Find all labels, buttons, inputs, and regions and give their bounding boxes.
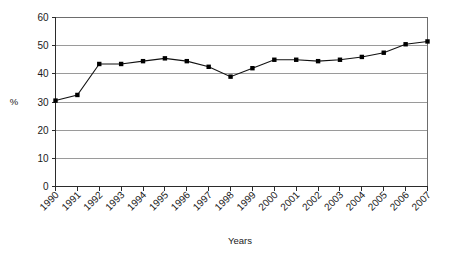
line-chart-figure: 0102030405060 19901991199219931994199519…: [0, 0, 456, 255]
x-axis-label: Years: [228, 235, 252, 246]
x-tick-label: 1997: [191, 189, 215, 213]
y-axis-ticks: 0102030405060: [37, 12, 55, 192]
x-tick-label: 1999: [234, 189, 258, 213]
x-tick-label: 1991: [59, 189, 83, 213]
data-point-marker: [206, 65, 210, 69]
x-tick-label: 1994: [125, 189, 149, 213]
data-point-marker: [119, 62, 123, 66]
x-tick-label: 1998: [212, 189, 236, 213]
data-point-marker: [250, 66, 254, 70]
data-point-marker: [360, 55, 364, 59]
x-axis-ticks: 1990199119921993199419951996199719981999…: [37, 187, 433, 213]
y-tick-label: 30: [37, 97, 49, 108]
series-line: [56, 41, 428, 100]
x-tick-label: 2003: [322, 189, 346, 213]
y-tick-label: 50: [37, 40, 49, 51]
y-axis-label: %: [10, 96, 19, 107]
y-tick-label: 20: [37, 125, 49, 136]
x-tick-label: 2004: [344, 189, 368, 213]
data-point-marker: [403, 42, 407, 46]
x-tick-label: 2001: [278, 189, 302, 213]
data-point-marker: [163, 56, 167, 60]
x-tick-label: 2005: [366, 189, 390, 213]
gridlines-group: [56, 18, 428, 159]
data-point-marker: [97, 62, 101, 66]
data-point-marker: [53, 98, 57, 102]
x-tick-label: 1996: [169, 189, 193, 213]
y-tick-label: 40: [37, 68, 49, 79]
data-point-marker: [294, 58, 298, 62]
x-tick-label: 1990: [37, 189, 61, 213]
data-point-marker: [228, 74, 232, 78]
x-tick-label: 1993: [103, 189, 127, 213]
y-tick-label: 60: [37, 12, 49, 23]
x-tick-label: 1992: [81, 189, 105, 213]
data-point-marker: [185, 59, 189, 63]
y-tick-label: 0: [43, 181, 49, 192]
data-point-marker: [316, 59, 320, 63]
data-point-marker: [272, 58, 276, 62]
data-series-group: [53, 39, 429, 103]
x-tick-label: 2000: [256, 189, 280, 213]
data-point-marker: [141, 59, 145, 63]
data-point-marker: [75, 93, 79, 97]
data-point-marker: [338, 58, 342, 62]
data-point-marker: [382, 51, 386, 55]
x-tick-label: 2006: [388, 189, 412, 213]
x-tick-label: 2007: [409, 189, 433, 213]
y-tick-label: 10: [37, 153, 49, 164]
data-point-marker: [425, 39, 429, 43]
chart-canvas: 0102030405060 19901991199219931994199519…: [0, 0, 456, 255]
x-tick-label: 1995: [147, 189, 171, 213]
x-tick-label: 2002: [300, 189, 324, 213]
